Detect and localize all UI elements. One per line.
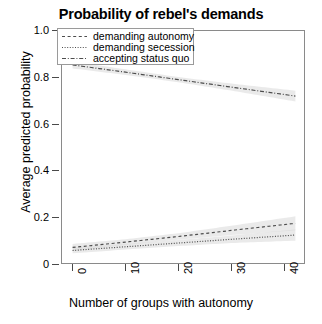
y-tick-mark [52,217,59,218]
x-tick-mark [231,264,232,271]
plot-svg [62,31,306,265]
y-tick-label: 1.0 [34,24,49,36]
y-tick-label: 0.4 [34,164,49,176]
y-tick-label: 0.8 [34,71,49,83]
x-tick-mark [284,264,285,271]
chart-title: Probability of rebel's demands [0,6,322,22]
legend-key-dashed-icon [61,31,88,42]
x-tick-label: 30 [235,262,247,274]
y-axis-title: Average predicted probability [19,12,33,252]
confidence-band [73,61,296,101]
chart-figure: Probability of rebel's demands 00.20.40.… [0,0,322,324]
legend-label: accepting status quo [93,53,189,64]
y-tick-mark [52,264,59,265]
y-tick-label: 0.6 [34,118,49,130]
x-tick-label: 10 [129,262,141,274]
x-axis: 010203040 [61,264,305,298]
x-tick-mark [125,264,126,271]
y-tick-label: 0.2 [34,211,49,223]
x-tick-mark [72,264,73,271]
x-tick-mark [178,264,179,271]
y-tick-label: 0 [43,258,49,270]
legend-key-dashdot-icon [61,53,88,64]
legend-key-dotted-icon [61,42,88,53]
plot-area [61,30,305,264]
x-axis-title: Number of groups with autonomy [0,296,322,310]
legend-item: accepting status quo [61,53,190,64]
y-tick-mark [52,77,59,78]
x-tick-label: 40 [288,262,300,274]
chart-legend: demanding autonomy demanding secession a… [57,28,194,65]
x-tick-label: 20 [182,262,194,274]
x-tick-label: 0 [76,268,88,274]
y-tick-mark [52,124,59,125]
y-tick-mark [52,170,59,171]
